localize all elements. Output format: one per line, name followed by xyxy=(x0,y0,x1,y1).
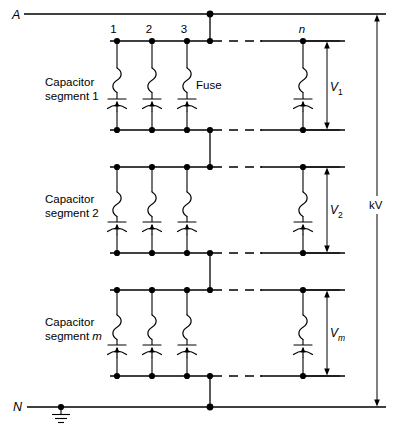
capacitor-branch-1-2 xyxy=(143,38,162,133)
terminal-label-a: A xyxy=(11,8,20,22)
spine-junction-dot xyxy=(207,38,213,44)
voltage-subscript-1: 1 xyxy=(338,87,343,97)
spine-junction-dot xyxy=(207,11,214,18)
node-label-2: 2 xyxy=(146,23,152,35)
node-label-1: 1 xyxy=(110,23,116,35)
capacitor-branch-1-n xyxy=(294,38,313,133)
voltage-label-1: V1 xyxy=(330,80,343,97)
segment-m-label-line1: Capacitor xyxy=(45,316,94,328)
segment-2-label-line1: Capacitor xyxy=(45,193,94,205)
segment-1-label-line2: segment 1 xyxy=(45,90,99,102)
voltage-label-2: V2 xyxy=(330,203,343,220)
capacitor-branch-1-3 xyxy=(178,38,197,133)
capacitor-branch-m-2 xyxy=(143,287,162,379)
overall-voltage-label: kV xyxy=(369,199,383,211)
fuse-callout-label: Fuse xyxy=(196,79,222,91)
capacitor-segment-1 xyxy=(108,11,346,134)
capacitor-branch-1-1 xyxy=(108,38,127,133)
capacitor-segment-2 xyxy=(108,164,346,256)
capacitor-branch-2-2 xyxy=(143,164,162,256)
capacitor-branch-m-3 xyxy=(178,287,197,379)
segment-2-label-line2: segment 2 xyxy=(45,207,99,219)
segment-m-index: m xyxy=(92,330,102,342)
voltage-subscript-m: m xyxy=(338,333,345,343)
node-label-3: 3 xyxy=(181,23,187,35)
capacitor-bank-schematic: A N 1 2 3 n Fuse Capacitor segment 1 Cap… xyxy=(0,0,410,437)
segment-1-label-line1: Capacitor xyxy=(45,76,94,88)
capacitor-branch-2-3 xyxy=(178,164,197,256)
voltage-subscript-2: 2 xyxy=(338,210,343,220)
spine-junction-dot xyxy=(207,404,214,411)
node-label-n: n xyxy=(299,23,305,35)
spine-junction-dot xyxy=(207,250,213,256)
capacitor-branch-m-n xyxy=(294,287,313,379)
spine-junction-dot xyxy=(207,127,213,133)
segment-m-label-line2: segment m xyxy=(45,330,102,342)
capacitor-branch-2-n xyxy=(294,164,313,256)
voltage-label-m: Vm xyxy=(330,326,345,343)
terminal-label-n: N xyxy=(13,400,23,414)
segment-m-label-line2-prefix: segment xyxy=(45,330,92,342)
capacitor-branch-m-1 xyxy=(108,287,127,379)
circuit-diagram: A N 1 2 3 n Fuse Capacitor segment 1 Cap… xyxy=(0,0,410,437)
spine-junction-dot xyxy=(207,373,213,379)
capacitor-branch-2-1 xyxy=(108,164,127,256)
spine-junction-dot xyxy=(207,164,213,170)
capacitor-segment-m xyxy=(108,287,346,411)
spine-junction-dot xyxy=(207,287,213,293)
